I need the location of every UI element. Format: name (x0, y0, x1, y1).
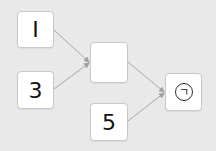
circled-hook-icon: ㄱ (175, 83, 193, 101)
node-a[interactable]: I (17, 11, 54, 48)
node-b[interactable]: 3 (17, 71, 54, 109)
edge-b-mid (54, 63, 89, 89)
edge-c-result (128, 93, 164, 121)
edge-a-mid (54, 30, 89, 62)
node-b-label: 3 (29, 78, 43, 103)
node-c[interactable]: 5 (90, 103, 128, 141)
node-c-label: 5 (102, 110, 116, 135)
operator-glyph: ㄱ (179, 87, 189, 98)
edge-mid-result (128, 62, 164, 92)
node-result[interactable]: ㄱ (165, 73, 202, 111)
node-mid[interactable] (90, 42, 128, 83)
node-a-label: I (32, 17, 39, 42)
